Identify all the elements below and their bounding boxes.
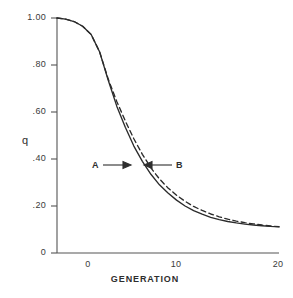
- y-tick-label-5: .20: [12, 200, 46, 210]
- y-tick-label-4: .40: [12, 153, 46, 163]
- y-tick-label-1: 1.00: [12, 12, 46, 22]
- y-tick-label-6: 0: [12, 247, 46, 257]
- figure-container: 1.00 .80 .60 .40 .20 0 0 10 20 q GENERAT…: [0, 0, 293, 298]
- y-axis-title: q: [22, 134, 28, 146]
- x-tick-label-2: 10: [164, 259, 188, 269]
- curve-label-a: A: [92, 160, 99, 170]
- x-axis-title: GENERATION: [111, 274, 179, 284]
- axes-group: [51, 18, 279, 253]
- x-tick-label-1: 0: [76, 259, 100, 269]
- curve-label-b: B: [176, 160, 183, 170]
- y-tick-marks: [51, 18, 57, 253]
- annotation-arrows: [103, 162, 172, 169]
- x-tick-label-3: 20: [266, 259, 290, 269]
- curve-a-solid: [57, 18, 279, 227]
- series-group: [57, 18, 279, 227]
- curve-b-dashed: [57, 18, 279, 227]
- y-tick-label-3: .60: [12, 106, 46, 116]
- y-tick-label-2: .80: [12, 59, 46, 69]
- arrow-a-head: [123, 162, 131, 169]
